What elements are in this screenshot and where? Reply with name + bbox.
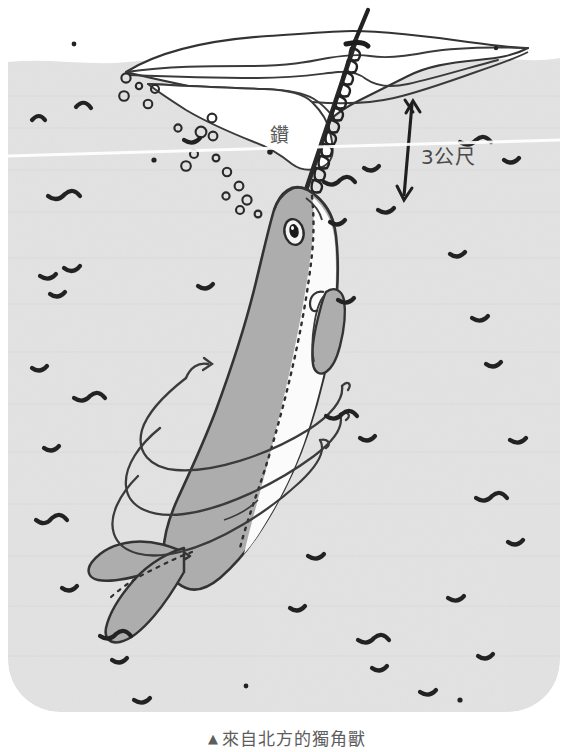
figure-caption: ▲來自北方的獨角獸 [0,726,574,752]
narwhal-illustration: 3公尺 鑽 [8,0,560,712]
caption-text: 來自北方的獨角獸 [222,729,366,749]
drill-label: 鑽 [270,124,289,146]
caption-triangle-icon: ▲ [208,731,219,746]
narwhal-figure: 3公尺 鑽 ▲來自北方的獨角獸 [0,0,574,752]
illustration-canvas: 3公尺 鑽 [8,0,560,712]
depth-label: 3公尺 [421,145,475,169]
